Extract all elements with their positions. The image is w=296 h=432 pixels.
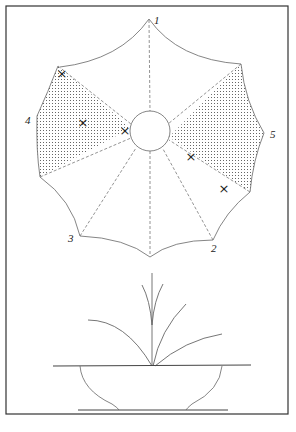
center-circle [130,111,170,151]
marker: × [120,123,131,138]
frame [6,6,288,414]
label-2: 2 [211,242,217,254]
label-5: 5 [270,128,276,140]
marker: × [57,66,68,81]
label-1: 1 [154,14,160,26]
shaded-sector-right [169,64,264,192]
label-4: 4 [25,114,31,126]
marker: × [186,149,197,164]
label-3: 3 [67,232,74,244]
bowl [53,365,251,410]
plant-stems [88,273,222,366]
diagram-canvas: × × × × × 1 2 3 4 5 [0,0,296,432]
marker: × [219,181,230,196]
marker: × [78,115,89,130]
